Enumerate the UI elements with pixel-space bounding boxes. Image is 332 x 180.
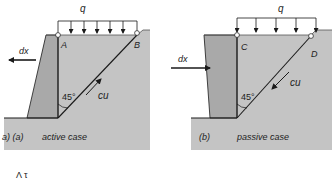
caption-active: active case (42, 132, 87, 142)
displacement-label: dx (178, 54, 188, 64)
angle-label: 45° (241, 92, 255, 102)
caption-prefix: a) (a) (2, 132, 24, 142)
point-label-c: C (241, 42, 248, 52)
retaining-wall (27, 35, 58, 118)
retaining-wall (204, 35, 237, 118)
distributed-load-q (237, 18, 316, 32)
point-label-a: A (60, 40, 67, 50)
hinge-point-c (235, 33, 240, 38)
load-label: q (278, 3, 284, 14)
panel-active-case: q A B dx 45° cu a) (a) active case (2, 3, 150, 150)
shear-label: cu (290, 77, 301, 88)
point-label-d: D (311, 49, 318, 59)
caption-passive: passive case (236, 132, 289, 142)
panel-passive-case: q C D dx 45° cu (b) passive case (171, 3, 332, 150)
distributed-load-q (58, 21, 137, 33)
angle-label: 45° (62, 92, 76, 102)
hinge-point-a (56, 33, 61, 38)
hinge-point-d (309, 34, 314, 39)
hinge-point-b (135, 31, 140, 36)
point-label-b: B (134, 40, 140, 50)
displacement-label: dx (19, 46, 29, 56)
caption-prefix: (b) (199, 132, 210, 142)
load-label: q (80, 3, 86, 14)
bottom-axis-fragment: Λ τ (16, 170, 28, 180)
diagram-canvas: q A B dx 45° cu a) (a) active case q C D (0, 0, 332, 180)
shear-label: cu (98, 90, 109, 101)
